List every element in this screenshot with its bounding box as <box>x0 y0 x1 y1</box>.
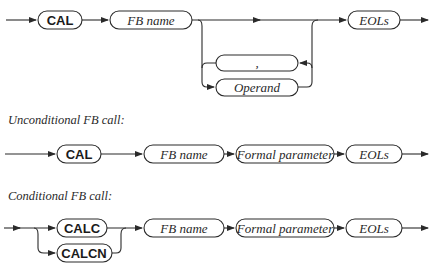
formal-parameter-label: Formal parameter <box>236 147 334 162</box>
eols-label: EOLs <box>358 13 389 28</box>
cal-keyword: CAL <box>47 13 74 28</box>
conditional-caption: Conditional FB call: <box>8 189 112 204</box>
unconditional-caption: Unconditional FB call: <box>8 113 125 128</box>
eols-label: EOLs <box>358 147 389 162</box>
eols-label: EOLs <box>358 221 389 236</box>
syntax-diagrams: CAL FB name , Operand EOLs CAL FB name F… <box>0 0 430 273</box>
cal-keyword: CAL <box>66 147 93 162</box>
diagram-conditional: CALC CALCN FB name Formal parameter EOLs <box>4 219 428 262</box>
operand-label: Operand <box>234 80 281 95</box>
fb-name-label: FB name <box>159 221 208 236</box>
fb-name-label: FB name <box>126 13 175 28</box>
formal-parameter-label: Formal parameter <box>236 221 334 236</box>
diagram-cal-operands: CAL FB name , Operand EOLs <box>6 11 428 96</box>
diagram-unconditional: CAL FB name Formal parameter EOLs <box>5 145 428 163</box>
calcn-keyword: CALCN <box>61 246 107 261</box>
fb-name-label: FB name <box>159 147 208 162</box>
separator-label: , <box>255 55 258 70</box>
calc-keyword: CALC <box>64 221 101 236</box>
